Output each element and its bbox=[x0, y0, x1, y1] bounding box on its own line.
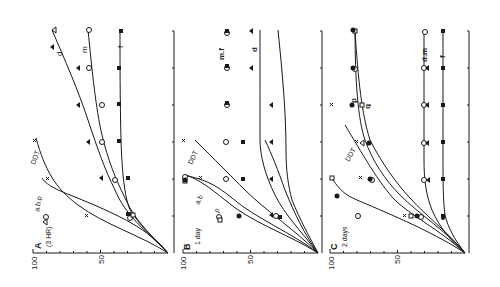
panel-c bbox=[330, 30, 469, 253]
panel-c-curve-f bbox=[443, 30, 465, 253]
panel-b-tick-100: 100 bbox=[179, 256, 188, 270]
panel-a-label-m: m bbox=[80, 46, 89, 53]
panel-c-label-p: p bbox=[349, 98, 358, 103]
panel-b-curve-ddt bbox=[195, 140, 318, 253]
panel-c-label-b: b bbox=[364, 104, 373, 109]
panel-a-tick-50: 50 bbox=[97, 255, 106, 264]
panel-b bbox=[183, 30, 322, 253]
panel-c-markers-open bbox=[330, 29, 428, 220]
panel-a-markers-f bbox=[117, 29, 130, 216]
panel-c-letter: C bbox=[329, 243, 339, 250]
panel-a-label-abp: a.b.p bbox=[33, 196, 44, 213]
panel-b-markers-filled bbox=[183, 28, 283, 219]
panel-b-labels: 100 50 B 1 day DDT a.b p m.f d bbox=[179, 47, 259, 270]
markers bbox=[33, 27, 445, 225]
panel-c-curve-b bbox=[355, 30, 465, 253]
panel-b-label-d: d bbox=[250, 47, 259, 52]
panel-b-label-mf: m.f bbox=[217, 48, 226, 60]
panel-a-markers-abp bbox=[43, 213, 135, 225]
panel-c-tick-50: 50 bbox=[393, 255, 402, 264]
panel-b-letter: B bbox=[182, 243, 192, 250]
panel-b-label-p: p bbox=[213, 207, 222, 214]
panel-a-subtitle: (3 HR) bbox=[45, 226, 53, 247]
panel-c-labels: 100 50 C 2 days DDT p b d.m f bbox=[327, 48, 447, 270]
panel-a-label-d: d bbox=[55, 52, 64, 56]
panel-c-curve-p bbox=[355, 30, 465, 253]
panel-a-curve-ddt bbox=[36, 138, 168, 253]
panel-b-curve-mf bbox=[260, 30, 318, 253]
panel-b-markers-open bbox=[183, 31, 279, 223]
panel-a-markers-ddt bbox=[33, 139, 88, 217]
panel-a-tick-100: 100 bbox=[30, 256, 39, 270]
panel-c-tick-100: 100 bbox=[327, 256, 336, 270]
panel-c-subtitle: 2 days bbox=[341, 226, 349, 247]
panel-b-subtitle: 1 day bbox=[194, 227, 202, 245]
panel-a-curve-d bbox=[52, 30, 168, 253]
panel-a-label-ddt: DDT bbox=[29, 149, 41, 166]
panel-a-curve-f bbox=[120, 30, 168, 253]
panel-c-label-dm: d.m bbox=[420, 48, 429, 62]
panel-b-label-ddt: DDT bbox=[187, 149, 200, 166]
panel-a-labels: 100 50 A (3 HR) DDT a.b.p d m f bbox=[29, 45, 125, 270]
figure-canvas: 100 50 A (3 HR) DDT a.b.p d m f 100 50 B… bbox=[0, 0, 500, 287]
panel-b-label-ab: a.b bbox=[194, 194, 205, 206]
panel-a-letter: A bbox=[33, 242, 43, 249]
panel-c-label-ddt: DDT bbox=[344, 146, 358, 163]
panel-c-label-f: f bbox=[438, 55, 447, 58]
panel-b-tick-50: 50 bbox=[246, 255, 255, 264]
